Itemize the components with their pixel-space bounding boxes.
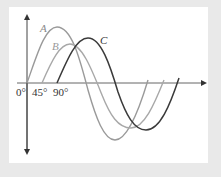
tick-label-90: 90° xyxy=(53,86,68,98)
curve-c xyxy=(57,38,179,130)
tick-label-0: 0° xyxy=(16,86,26,98)
curve-label-c: C xyxy=(100,34,107,46)
curve-label-a: A xyxy=(40,22,47,34)
tick-label-45: 45° xyxy=(32,86,47,98)
curve-label-b: B xyxy=(52,40,59,52)
